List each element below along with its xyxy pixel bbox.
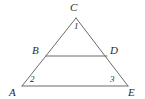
vertex-label-b: B xyxy=(32,45,39,56)
angle-label-3: 3 xyxy=(110,75,115,84)
vertex-label-e: E xyxy=(128,87,135,98)
vertex-label-d: D xyxy=(110,45,118,56)
triangle-diagram-svg xyxy=(0,0,145,99)
vertex-label-a: A xyxy=(9,87,16,98)
vertex-label-c: C xyxy=(70,2,77,13)
geometry-figure: C B D A E 1 2 3 xyxy=(0,0,145,99)
segment-CE xyxy=(76,18,128,86)
angle-label-1: 1 xyxy=(74,22,79,31)
angle-label-2: 2 xyxy=(30,75,35,84)
